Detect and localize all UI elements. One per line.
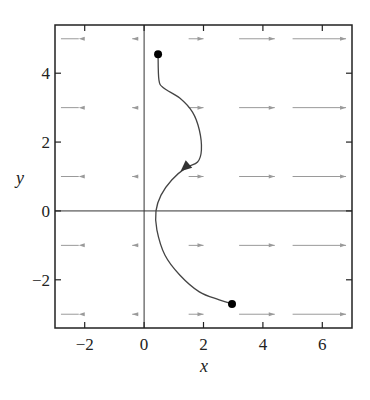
- field-arrow-icon: [61, 175, 85, 179]
- x-tick-label: −2: [76, 335, 94, 354]
- field-arrow-icon: [132, 312, 138, 316]
- endpoint-dot-icon: [228, 300, 236, 308]
- trajectory-markers: [154, 50, 236, 308]
- phase-plot: −20246−2024 x y: [0, 0, 370, 400]
- x-axis-label: x: [199, 356, 208, 376]
- field-arrow-icon: [293, 243, 346, 247]
- field-arrow-icon: [293, 37, 346, 41]
- field-arrow-icon: [239, 175, 275, 179]
- field-arrow-icon: [61, 243, 85, 247]
- trajectory-curve: [156, 54, 232, 304]
- axis-ticks: −20246−2024: [32, 25, 352, 354]
- field-arrow-icon: [239, 106, 275, 110]
- field-arrow-icon: [293, 106, 346, 110]
- y-tick-label: 2: [42, 133, 51, 152]
- field-arrow-icon: [132, 106, 138, 110]
- y-axis-label: y: [14, 168, 24, 188]
- field-arrow-icon: [132, 37, 138, 41]
- x-tick-label: 4: [259, 335, 268, 354]
- y-tick-label: 4: [42, 64, 51, 83]
- y-tick-label: −2: [32, 271, 50, 290]
- field-arrow-icon: [239, 37, 275, 41]
- endpoint-dot-icon: [154, 50, 162, 58]
- field-arrow-icon: [61, 106, 85, 110]
- field-arrow-icon: [239, 312, 275, 316]
- field-arrow-icon: [189, 175, 204, 179]
- field-arrow-icon: [189, 312, 204, 316]
- field-arrow-icon: [61, 37, 85, 41]
- field-arrow-icon: [189, 243, 204, 247]
- field-arrow-icon: [132, 175, 138, 179]
- field-arrow-icon: [189, 37, 204, 41]
- field-arrow-icon: [239, 243, 275, 247]
- field-arrow-icon: [61, 312, 85, 316]
- field-arrow-icon: [293, 312, 346, 316]
- vector-field: [61, 37, 346, 316]
- y-tick-label: 0: [42, 202, 51, 221]
- x-tick-label: 0: [140, 335, 149, 354]
- field-arrow-icon: [132, 243, 138, 247]
- field-arrow-icon: [293, 175, 346, 179]
- x-tick-label: 6: [318, 335, 327, 354]
- x-tick-label: 2: [199, 335, 208, 354]
